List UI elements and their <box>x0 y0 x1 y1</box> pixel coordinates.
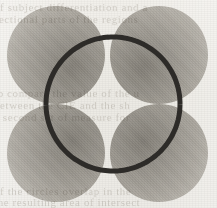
figure-canvas: of subject differentiation and a section… <box>0 0 217 208</box>
scan-grain-overlay <box>0 0 217 208</box>
